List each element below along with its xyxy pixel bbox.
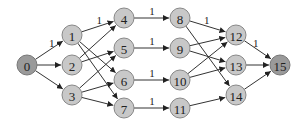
node-7: 7 — [114, 98, 134, 118]
node-10: 10 — [170, 70, 190, 90]
edge-3-6 — [82, 83, 114, 92]
node-label: 14 — [230, 89, 244, 104]
node-1: 1 — [62, 25, 82, 45]
node-label: 15 — [274, 59, 287, 74]
node-label: 0 — [24, 59, 31, 74]
node-label: 7 — [121, 102, 128, 117]
node-label: 11 — [174, 102, 187, 117]
edge-label: 1 — [253, 37, 259, 49]
node-12: 12 — [226, 25, 246, 45]
node-label: 3 — [69, 89, 76, 104]
node-13: 13 — [226, 55, 246, 75]
edge-14-15 — [244, 71, 271, 89]
node-label: 5 — [121, 42, 128, 57]
node-4: 4 — [114, 8, 134, 28]
edge-label: 1 — [149, 95, 155, 107]
node-label: 13 — [230, 59, 243, 74]
node-2: 2 — [62, 55, 82, 75]
node-5: 5 — [114, 38, 134, 58]
node-label: 1 — [69, 29, 76, 44]
node-3: 3 — [62, 85, 82, 105]
graph-diagram: 11111111 0123456789101112131415 — [0, 0, 300, 127]
edge-0-3 — [35, 71, 63, 89]
node-label: 6 — [121, 74, 128, 89]
edge-label: 1 — [149, 67, 155, 79]
node-label: 8 — [177, 12, 184, 27]
node-14: 14 — [226, 85, 246, 105]
node-label: 2 — [69, 59, 76, 74]
node-label: 12 — [230, 29, 243, 44]
edge-9-13 — [190, 51, 226, 62]
node-label: 10 — [174, 74, 187, 89]
graph-canvas: 11111111 0123456789101112131415 — [0, 0, 300, 127]
node-11: 11 — [170, 98, 190, 118]
node-8: 8 — [170, 8, 190, 28]
edge-label: 1 — [204, 14, 210, 26]
node-0: 0 — [17, 55, 37, 75]
edge-1-6 — [80, 42, 116, 73]
edge-3-7 — [82, 97, 114, 105]
edge-label: 1 — [149, 35, 155, 47]
edge-2-5 — [82, 51, 114, 61]
node-label: 4 — [121, 12, 128, 27]
node-label: 9 — [177, 42, 184, 57]
node-6: 6 — [114, 70, 134, 90]
edge-label: 1 — [96, 14, 102, 26]
node-9: 9 — [170, 38, 190, 58]
node-15: 15 — [270, 55, 290, 75]
edge-label: 1 — [149, 5, 155, 17]
edge-label: 1 — [49, 37, 55, 49]
edge-11-14 — [190, 97, 226, 105]
